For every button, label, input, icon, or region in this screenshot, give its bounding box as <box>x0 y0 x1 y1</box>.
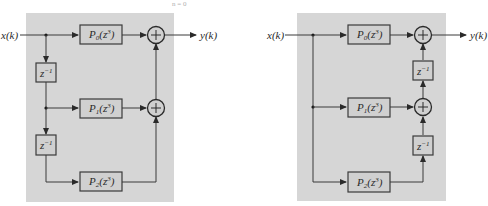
left-diagram: x(k) y(k) P0(z3) P1(z3) P2(z3) <box>0 13 217 202</box>
svg-text:P1(z3): P1(z3) <box>356 101 383 115</box>
svg-text:P0(z3): P0(z3) <box>356 28 383 42</box>
left-block-p1: P1(z3) <box>80 99 122 118</box>
svg-text:P2(z3): P2(z3) <box>356 176 383 190</box>
polyphase-diagrams: n = 0 x(k) y(k) P0(z3) P1(z3) P <box>0 0 488 206</box>
top-fragment-text: n = 0 <box>172 0 187 8</box>
svg-text:P0(z3): P0(z3) <box>88 28 115 42</box>
right-block-p1: P1(z3) <box>348 98 390 117</box>
left-adder-middle <box>148 100 165 117</box>
left-delay-2: z−1 <box>36 135 56 155</box>
right-delay-1: z−1 <box>413 61 433 80</box>
left-adder-top <box>148 27 165 44</box>
left-delay-1: z−1 <box>36 63 56 82</box>
right-input-label: x(k) <box>266 29 284 42</box>
right-block-p2: P2(z3) <box>348 172 390 192</box>
right-delay-2: z−1 <box>413 136 433 155</box>
left-output-label: y(k) <box>199 29 217 42</box>
left-block-p0: P0(z3) <box>80 25 122 44</box>
svg-text:P1(z3): P1(z3) <box>88 102 115 116</box>
right-adder-middle <box>415 99 432 116</box>
right-diagram: x(k) y(k) P0(z3) P1(z3) P2(z3) <box>266 13 487 201</box>
left-block-p2: P2(z3) <box>80 172 122 191</box>
svg-text:P2(z3): P2(z3) <box>88 175 115 189</box>
left-input-label: x(k) <box>0 29 18 42</box>
right-adder-top <box>415 27 432 44</box>
right-block-p0: P0(z3) <box>348 25 390 44</box>
right-output-label: y(k) <box>469 29 487 42</box>
